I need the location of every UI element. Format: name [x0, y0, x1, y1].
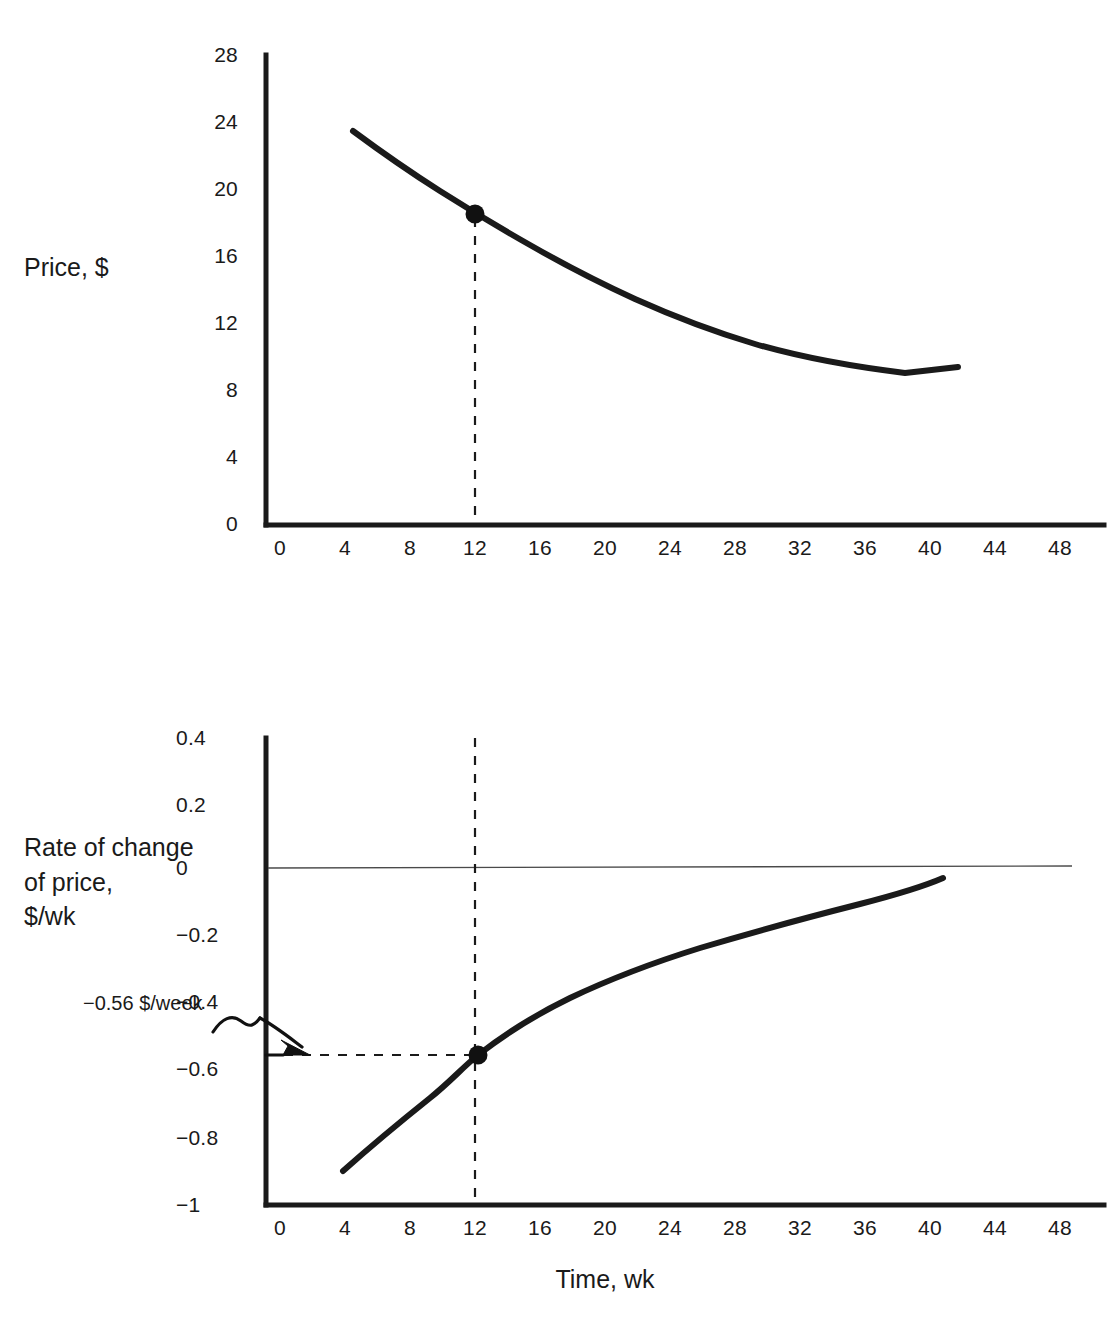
price-xtick-40: 40 [918, 536, 942, 560]
price-ytick-16: 16 [186, 244, 238, 268]
rate-xtick-24: 24 [658, 1216, 682, 1240]
price-xtick-48: 48 [1048, 536, 1072, 560]
price-ytick-28: 28 [186, 43, 238, 67]
price-xtick-20: 20 [593, 536, 617, 560]
price-ytick-12: 12 [186, 311, 238, 335]
price-xtick-32: 32 [788, 536, 812, 560]
rate-ytick-m1: −1 [176, 1193, 200, 1217]
price-xtick-36: 36 [853, 536, 877, 560]
price-curve [353, 131, 958, 373]
price-chart-group [266, 55, 1104, 525]
rate-zero-line [268, 866, 1072, 868]
price-ytick-20: 20 [186, 177, 238, 201]
rate-xtick-32: 32 [788, 1216, 812, 1240]
price-ytick-0: 0 [186, 512, 238, 536]
rate-xtick-12: 12 [463, 1216, 487, 1240]
rate-ytick-0: 0 [176, 856, 188, 880]
shared-xaxis-title: Time, wk [555, 1262, 654, 1297]
rate-ytick-m0p8: −0.8 [176, 1126, 218, 1150]
rate-ytick-0p4: 0.4 [176, 726, 206, 750]
rate-xtick-44: 44 [983, 1216, 1007, 1240]
rate-chart-group [213, 738, 1104, 1205]
rate-xtick-28: 28 [723, 1216, 747, 1240]
price-xtick-8: 8 [404, 536, 416, 560]
rate-xtick-20: 20 [593, 1216, 617, 1240]
price-point-marker [466, 205, 485, 224]
price-xtick-16: 16 [528, 536, 552, 560]
rate-ytick-m0p2: −0.2 [176, 923, 218, 947]
rate-xtick-36: 36 [853, 1216, 877, 1240]
price-ytick-24: 24 [186, 110, 238, 134]
rate-callout-label: −0.56 $/week [83, 992, 203, 1015]
rate-xtick-48: 48 [1048, 1216, 1072, 1240]
rate-point-marker [469, 1046, 488, 1065]
rate-axis-title: Rate of change of price, $/wk [24, 830, 254, 934]
price-xtick-24: 24 [658, 536, 682, 560]
rate-xtick-4: 4 [339, 1216, 351, 1240]
callout-arrow-shaft [213, 1018, 260, 1032]
rate-ytick-m0p6: −0.6 [176, 1057, 218, 1081]
price-ytick-8: 8 [186, 378, 238, 402]
rate-xtick-16: 16 [528, 1216, 552, 1240]
price-xtick-44: 44 [983, 536, 1007, 560]
price-ytick-4: 4 [186, 445, 238, 469]
rate-xtick-40: 40 [918, 1216, 942, 1240]
rate-xtick-0: 0 [274, 1216, 286, 1240]
rate-xtick-8: 8 [404, 1216, 416, 1240]
rate-ytick-0p2: 0.2 [176, 793, 206, 817]
rate-curve [343, 878, 943, 1171]
plot-canvas [0, 0, 1119, 1320]
price-xtick-12: 12 [463, 536, 487, 560]
figure-root: Price, $ 28 24 20 16 12 8 4 0 0 4 8 12 1… [0, 0, 1119, 1320]
price-xtick-28: 28 [723, 536, 747, 560]
price-xtick-4: 4 [339, 536, 351, 560]
price-xtick-0: 0 [274, 536, 286, 560]
